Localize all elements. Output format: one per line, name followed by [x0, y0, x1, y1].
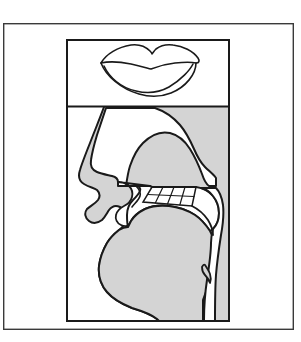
vocal-tract-diagram-svg [0, 0, 301, 342]
articulation-figure: Lips (front view) Head (mid-sagittal sec… [0, 0, 301, 342]
head-sagittal-section [68, 107, 228, 321]
